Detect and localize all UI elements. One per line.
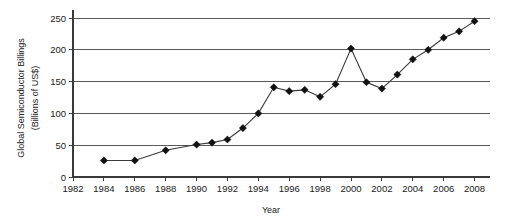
x-tick-label-1992: 1992 (217, 183, 238, 194)
x-tick-label-2008: 2008 (464, 183, 485, 194)
y-tick-label-250: 250 (50, 13, 66, 24)
data-point-1997 (301, 86, 308, 93)
data-point-1984 (100, 157, 107, 164)
data-point-markers (100, 18, 478, 164)
x-tick-label-1990: 1990 (186, 183, 207, 194)
x-tick-label-2002: 2002 (371, 183, 392, 194)
x-tick-label-1984: 1984 (93, 183, 114, 194)
y-tick-label-200: 200 (50, 44, 66, 55)
axis-lines (69, 10, 490, 177)
line-chart: 050100150200250 198219841986198819901992… (0, 0, 510, 222)
y-tick-label-100: 100 (50, 108, 66, 119)
x-axis-title: Year (262, 205, 280, 215)
y-axis-title-line1: Global Semiconductor Billings (16, 38, 26, 158)
data-point-1996 (286, 88, 293, 95)
data-point-2007 (456, 28, 463, 35)
x-tick-label-1986: 1986 (124, 183, 145, 194)
x-tick-label-2004: 2004 (402, 183, 423, 194)
y-tick-label-50: 50 (55, 140, 66, 151)
gridlines (73, 18, 490, 145)
y-tick-label-150: 150 (50, 76, 66, 87)
chart-figure: 050100150200250 198219841986198819901992… (0, 0, 510, 222)
data-point-1986 (131, 157, 138, 164)
data-point-1990 (193, 141, 200, 148)
x-tick-label-1998: 1998 (310, 183, 331, 194)
x-axis-tick-labels: 1982198419861988199019921994199619982000… (62, 183, 485, 194)
y-tick-label-0: 0 (61, 172, 66, 183)
x-tick-label-1996: 1996 (279, 183, 300, 194)
x-tick-label-1982: 1982 (62, 183, 83, 194)
data-point-2000 (347, 45, 354, 52)
x-tick-label-1988: 1988 (155, 183, 176, 194)
data-point-2008 (471, 18, 478, 25)
data-point-1988 (162, 147, 169, 154)
x-axis-ticks (73, 177, 475, 181)
x-tick-label-2000: 2000 (340, 183, 361, 194)
x-tick-label-2006: 2006 (433, 183, 454, 194)
data-point-2001 (363, 79, 370, 86)
y-axis-title-line2: (Billions of US$) (30, 66, 40, 131)
y-axis-tick-labels: 050100150200250 (50, 13, 66, 183)
data-point-1995 (270, 84, 277, 91)
x-tick-label-1994: 1994 (248, 183, 269, 194)
